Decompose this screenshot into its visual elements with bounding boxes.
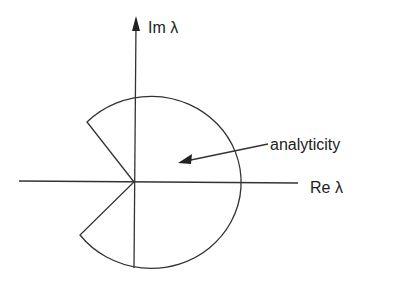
imaginary-axis [134,22,136,268]
real-axis-label: Re λ [310,179,343,196]
imaginary-axis-label: Im λ [148,19,178,36]
pointer-arrowhead-icon [178,154,192,164]
imaginary-axis-arrowhead-icon [132,16,140,31]
complex-plane-diagram: Im λ Re λ analyticity [0,0,396,283]
real-axis [19,181,298,183]
pointer-arrow-shaft [186,144,268,161]
analyticity-label: analyticity [270,136,340,153]
